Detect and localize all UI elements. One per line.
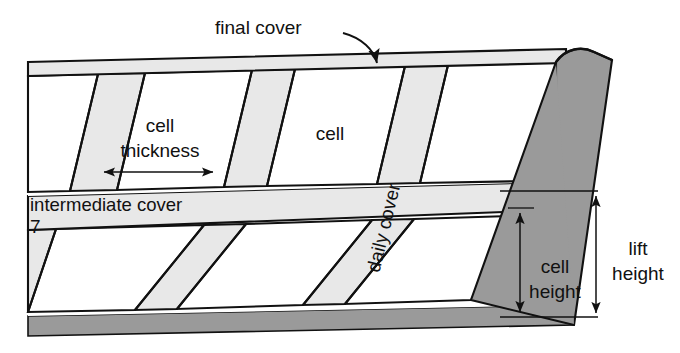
intermediate-cover-label: intermediate cover xyxy=(30,194,182,215)
cell-height-label-line2: height xyxy=(529,281,581,302)
landfill-diagram-figure: 7 final cover cell thickness cell daily … xyxy=(0,0,680,353)
scan-artifact-mark: 7 xyxy=(30,216,41,237)
cell-thickness-label-line1: cell xyxy=(146,115,175,136)
cell-label: cell xyxy=(316,123,345,144)
lift-height-label-line2: height xyxy=(612,263,664,284)
cell-height-label-line1: cell xyxy=(541,256,570,277)
cell-thickness-label-line2: thickness xyxy=(120,140,199,161)
final-cover-label: final cover xyxy=(215,17,302,38)
landfill-cross-section-svg: 7 final cover cell thickness cell daily … xyxy=(0,0,680,353)
lift-height-label-line1: lift xyxy=(629,238,649,259)
